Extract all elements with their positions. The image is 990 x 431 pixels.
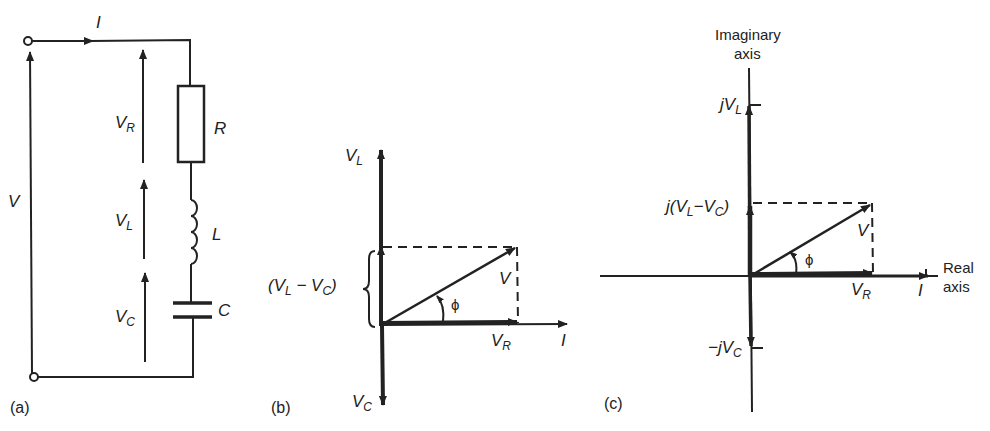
top-terminal xyxy=(24,37,32,45)
dashed-vertical xyxy=(872,203,873,274)
vr-phasor xyxy=(381,322,517,323)
vc-axis-arrow xyxy=(382,326,383,405)
imag-axis-label-2: axis xyxy=(734,45,761,62)
real-axis-label-2: axis xyxy=(943,278,970,295)
capacitor-label: C xyxy=(218,301,231,320)
current-label: I xyxy=(96,13,101,32)
brace-label: (VL − VC) xyxy=(268,276,337,298)
bottom-terminal xyxy=(30,373,38,381)
v-label: V xyxy=(857,221,870,240)
v-phasor xyxy=(383,248,515,324)
v-label: V xyxy=(499,269,512,288)
vc-label: VC xyxy=(352,392,372,414)
resistor xyxy=(178,86,204,162)
vc-label: VC xyxy=(115,307,135,329)
panel-c-tag: (c) xyxy=(604,395,623,412)
real-axis-label-1: Real xyxy=(943,259,974,276)
resistor-label: R xyxy=(214,119,226,138)
phasor-diagram-b: VL VC (VL − VC) V ϕ VR I (b) xyxy=(268,146,567,416)
vr-label: VR xyxy=(491,331,511,353)
bottom-wire xyxy=(38,318,193,377)
brace xyxy=(363,251,375,327)
dashed-vertical xyxy=(517,247,518,323)
neg-jvc-phasor xyxy=(750,276,751,346)
jdiff-label: j(VL−VC) xyxy=(664,197,729,219)
jvl-label: jVL xyxy=(718,95,742,117)
neg-jvc-label: −jVC xyxy=(708,338,742,360)
panel-b-tag: (b) xyxy=(271,399,291,416)
source-voltage-label: V xyxy=(8,192,21,211)
vl-label: VL xyxy=(345,146,363,168)
imag-axis-label-1: Imaginary xyxy=(715,26,781,43)
vr-label: VR xyxy=(115,113,135,135)
inductor-label: L xyxy=(212,225,221,244)
i-label: I xyxy=(561,331,566,350)
phi-arc xyxy=(790,252,796,274)
phi-label: ϕ xyxy=(805,251,813,268)
i-label: I xyxy=(918,281,923,300)
phi-label: ϕ xyxy=(451,296,459,313)
top-wire xyxy=(90,40,190,86)
vr-label: VR xyxy=(851,280,871,302)
source-voltage-arrow xyxy=(30,52,32,373)
phi-arc xyxy=(437,296,443,322)
complex-plane-diagram-c: Imaginary axis Real axis jVL j(VL−VC) −j… xyxy=(600,26,974,412)
vl-label: VL xyxy=(115,211,133,233)
inductor xyxy=(191,200,197,264)
panel-a-tag: (a) xyxy=(10,399,30,416)
vr-phasor xyxy=(752,273,872,274)
circuit-diagram: I V R L C VR VL VC (a) xyxy=(8,13,231,416)
